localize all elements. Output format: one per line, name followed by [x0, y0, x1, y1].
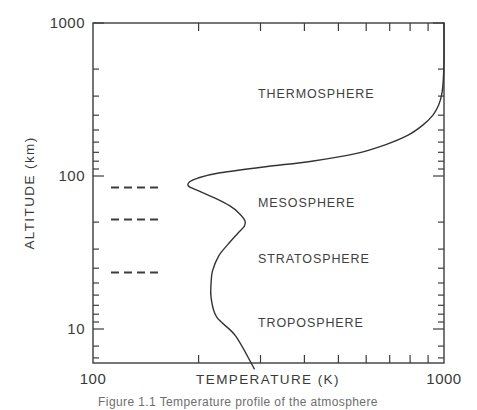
- y-axis-minor-ticks: [93, 69, 444, 358]
- y-tick-label-100: 100: [58, 167, 85, 184]
- y-axis-title: ALTITUDE (km): [22, 136, 37, 249]
- x-tick-label-100: 100: [80, 370, 107, 387]
- chart-canvas: 1000 100 10 100 1000 TEMPERATURE (K) ALT…: [0, 0, 477, 410]
- region-label-stratosphere: STRATOSPHERE: [258, 252, 370, 266]
- atmospheric-boundary-markers: [111, 188, 161, 273]
- region-label-thermosphere: THERMOSPHERE: [258, 87, 374, 101]
- x-tick-label-1000: 1000: [426, 370, 461, 387]
- y-axis-major-ticks: [93, 23, 444, 329]
- temperature-profile-figure: 1000 100 10 100 1000 TEMPERATURE (K) ALT…: [0, 0, 477, 410]
- region-label-mesosphere: MESOSPHERE: [258, 196, 355, 210]
- y-tick-label-10: 10: [67, 320, 85, 337]
- x-axis-minor-ticks: [199, 23, 429, 363]
- plot-frame: [93, 23, 444, 363]
- figure-caption: Figure 1.1 Temperature profile of the at…: [98, 395, 378, 409]
- y-tick-label-1000: 1000: [50, 14, 85, 31]
- region-label-troposphere: TROPOSPHERE: [258, 316, 364, 330]
- x-axis-title: TEMPERATURE (K): [196, 372, 340, 387]
